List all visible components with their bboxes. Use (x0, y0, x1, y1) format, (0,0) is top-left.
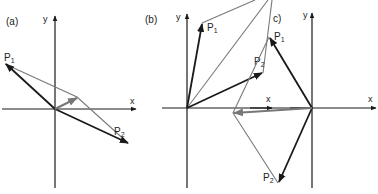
parallelogram-top (202, 0, 255, 23)
vector-p1 (187, 24, 202, 108)
vector-p2 (279, 108, 312, 182)
resultant-vector (234, 108, 312, 113)
panel-a-label: (a) (6, 16, 18, 27)
p1-label: P1 (207, 22, 218, 34)
panel-c: c) y x P1 P2 (233, 10, 376, 188)
p1-label: P1 (4, 52, 15, 64)
vector-p2 (187, 73, 262, 108)
panel-a: (a) y x P1 P2 (2, 14, 136, 188)
panel-b-label: (b) (145, 14, 157, 25)
panel-b: (b) y P1 P2 x (145, 0, 312, 188)
x-axis-label: x (130, 96, 135, 106)
resultant-vector (55, 98, 77, 109)
y-axis-label: y (43, 14, 48, 24)
x-axis-label: x (368, 94, 373, 104)
y-axis-label: y (303, 10, 308, 20)
p2-label: P2 (114, 126, 125, 138)
vector-p1 (6, 64, 55, 109)
vector-p1 (270, 38, 312, 108)
resultant-line (187, 0, 268, 108)
x-axis-label: x (266, 94, 271, 104)
p1-label: P1 (274, 31, 285, 43)
vector-addition-diagram: (a) y x P1 P2 (b) y P1 P2 x c) y (0, 0, 378, 194)
panel-c-label: c) (273, 13, 281, 24)
y-axis-label: y (176, 12, 181, 22)
